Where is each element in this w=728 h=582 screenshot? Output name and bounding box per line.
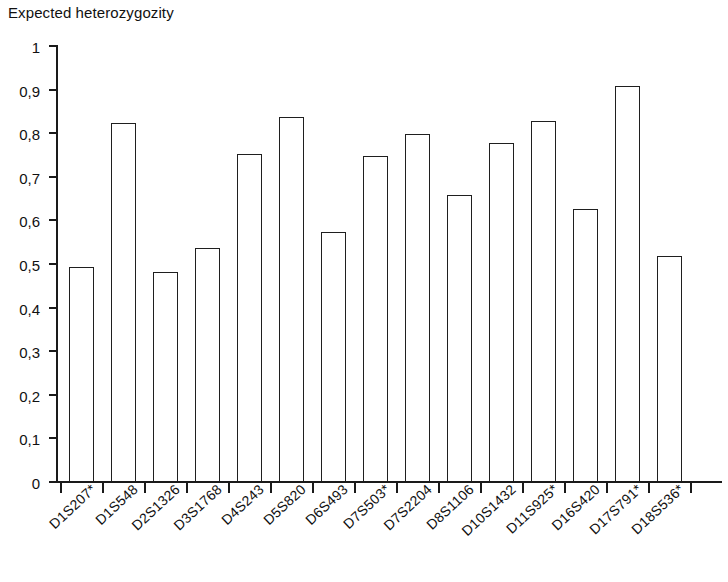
y-axis-tick-label: 0,8	[19, 126, 40, 143]
bar-value: 0,49	[70, 268, 71, 269]
bar: 0,82	[111, 123, 136, 481]
y-axis-tick: 0,1	[49, 437, 56, 439]
bar-value: 0,57	[322, 233, 323, 234]
y-axis-tick-label: 0,3	[19, 344, 40, 361]
y-axis-tick: 0,7	[49, 176, 56, 178]
bar-value: 0,515	[658, 257, 659, 258]
chart-title: Expected heterozygozity	[8, 4, 174, 21]
y-axis-tick-label: 0,5	[19, 257, 40, 274]
y-axis-tick: 0,4	[49, 307, 56, 309]
y-axis-tick: 0,6	[49, 219, 56, 221]
bar: 0,795	[405, 134, 430, 481]
y-axis-tick: 1	[49, 45, 56, 47]
bar-value: 0,625	[574, 210, 575, 211]
y-axis-tick: 0,9	[49, 89, 56, 91]
y-axis-tick-label: 1	[32, 39, 40, 56]
bar-value: 0,775	[490, 144, 491, 145]
bar: 0,655	[447, 195, 472, 481]
bar-value: 0,835	[280, 118, 281, 119]
bar: 0,905	[615, 86, 640, 481]
plot-area: 10,90,80,70,60,50,40,30,20,10 0,490,820,…	[56, 45, 722, 481]
y-axis-tick-label: 0,7	[19, 169, 40, 186]
bar-value: 0,655	[448, 196, 449, 197]
bar: 0,825	[531, 121, 556, 481]
y-axis-tick: 0,8	[49, 132, 56, 134]
y-axis-tick: 0,2	[49, 394, 56, 396]
chart-figure: Expected heterozygozity 10,90,80,70,60,5…	[0, 0, 728, 582]
bar-value: 0,745	[364, 157, 365, 158]
y-axis-tick-label: 0,9	[19, 82, 40, 99]
bar-value: 0,82	[112, 124, 113, 125]
y-axis-tick-label: 0,6	[19, 213, 40, 230]
y-axis-tick-label: 0,2	[19, 387, 40, 404]
y-axis-tick: 0	[49, 481, 56, 483]
bar-value: 0,75	[238, 155, 239, 156]
bar-value: 0,48	[154, 273, 155, 274]
bar-value: 0,795	[406, 135, 407, 136]
x-axis-label-text: D1S207*	[45, 481, 98, 532]
bar: 0,75	[237, 154, 262, 481]
bar: 0,745	[363, 156, 388, 481]
bar-value: 0,825	[532, 122, 533, 123]
y-axis-tick-label: 0	[32, 475, 40, 492]
y-axis-tick: 0,5	[49, 263, 56, 265]
y-axis-tick: 0,3	[49, 350, 56, 352]
y-axis-tick-label: 0,1	[19, 431, 40, 448]
bar-value: 0,905	[616, 87, 617, 88]
bar-value: 0,535	[196, 249, 197, 250]
bar: 0,57	[321, 232, 346, 481]
x-axis-tick	[60, 481, 62, 493]
y-axis-line	[56, 45, 58, 481]
bar: 0,775	[489, 143, 514, 481]
bar: 0,835	[279, 117, 304, 481]
y-axis-tick-label: 0,4	[19, 300, 40, 317]
bar: 0,49	[69, 267, 94, 481]
